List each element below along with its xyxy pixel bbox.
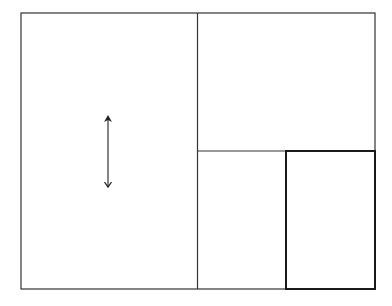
double-arrow-icon [104,115,112,187]
layout-diagram [0,0,392,306]
highlighted-panel [286,151,375,289]
